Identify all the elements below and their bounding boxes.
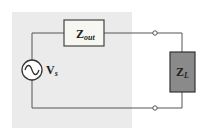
bottom-terminal xyxy=(153,106,157,110)
circuit-diagram: Zout ZL Vs xyxy=(0,0,207,128)
top-terminal xyxy=(153,31,157,35)
